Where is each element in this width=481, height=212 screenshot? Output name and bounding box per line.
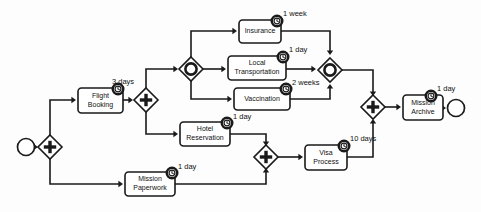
task-vaccination-duration-label: 2 weeks <box>292 78 320 87</box>
flow-split-to-flight-arrowhead <box>71 97 76 103</box>
task-mission-archive-label-line2: Archive <box>411 108 434 115</box>
flow-insurance-to-join-arrowhead <box>327 50 333 55</box>
flow-incl-to-vaccination-line <box>191 81 230 99</box>
task-mission-archive-duration-label: 1 day <box>437 84 456 93</box>
inclusive-gateway-split[interactable] <box>179 57 203 81</box>
task-local-transportation-label-line1: Local <box>249 59 266 66</box>
task-mission-paperwork-duration-label: 1 day <box>178 162 197 171</box>
task-hotel-reservation-label-line1: Hotel <box>197 125 214 132</box>
task-local-transportation-duration-label: 1 day <box>289 45 308 54</box>
flow-incljoin-to-final-line <box>342 70 373 93</box>
bpmn-diagram-svg: FlightBooking3 daysInsurance1 weekLocalT… <box>0 0 481 212</box>
flow-hotel-to-visajoin-line <box>230 134 266 143</box>
task-local-transportation[interactable]: LocalTransportation1 day <box>228 45 308 80</box>
flow-incl-to-insurance-arrowhead <box>232 28 237 34</box>
end-event[interactable] <box>448 100 465 117</box>
flow-vaccination-to-join-arrowhead <box>327 84 333 89</box>
task-hotel-reservation-duration-label: 1 day <box>233 112 252 121</box>
timer-mission-archive[interactable] <box>426 91 436 101</box>
flow-split-to-paperwork[interactable] <box>50 159 123 187</box>
task-flight-booking[interactable]: FlightBooking3 days <box>78 77 134 113</box>
task-insurance-label: Insurance <box>245 27 276 34</box>
task-local-transportation-label-line2: Transportation <box>235 68 280 76</box>
task-hotel-reservation[interactable]: HotelReservation1 day <box>180 112 252 146</box>
flow-visajoin-to-visa[interactable] <box>278 154 303 160</box>
task-visa-process[interactable]: VisaProcess10 days <box>305 134 377 170</box>
flow-gateway-to-hotel-arrowhead <box>173 131 178 137</box>
task-vaccination-label: Vaccination <box>244 95 280 102</box>
flow-flight-to-gateway[interactable] <box>123 97 133 103</box>
timer-vaccination[interactable] <box>281 84 291 94</box>
inclusive-gateway-join[interactable] <box>318 58 342 82</box>
flow-gateway-to-hotel[interactable] <box>146 112 178 137</box>
task-flight-booking-label-line1: Flight <box>92 92 109 100</box>
task-flight-booking-label-line2: Booking <box>88 101 113 109</box>
task-vaccination[interactable]: Vaccination2 weeks <box>234 78 320 110</box>
flow-incl-to-insurance[interactable] <box>191 28 237 57</box>
timer-mission-paperwork[interactable] <box>167 168 177 178</box>
timer-flight-booking[interactable] <box>113 84 123 94</box>
parallel-gateway-join-visa[interactable] <box>254 145 278 169</box>
flow-incl-to-local-arrowhead <box>221 66 226 72</box>
inclusive-gateway-split-diamond[interactable] <box>179 57 203 81</box>
task-visa-process-duration-label: 10 days <box>350 134 377 143</box>
flow-split-to-flight[interactable] <box>50 97 76 135</box>
flow-split-to-paperwork-arrowhead <box>118 181 123 187</box>
flow-incl-to-vaccination-arrowhead <box>227 96 232 102</box>
timer-hotel-reservation[interactable] <box>222 118 232 128</box>
flow-local-to-join-arrowhead <box>311 66 316 72</box>
end-event-circle[interactable] <box>448 100 465 117</box>
timer-visa-process[interactable] <box>339 141 349 151</box>
task-mission-paperwork-label-line1: Mission <box>138 175 162 182</box>
flow-incl-to-vaccination[interactable] <box>191 81 232 102</box>
flow-gateway-to-hotel-line <box>146 112 176 134</box>
parallel-gateway-split-flight[interactable] <box>134 88 158 112</box>
flow-visajoin-to-visa-arrowhead <box>298 154 303 160</box>
flow-final-to-archive[interactable] <box>385 104 401 110</box>
flow-split-to-paperwork-line <box>50 159 121 184</box>
parallel-gateway-split-main[interactable] <box>38 135 62 159</box>
flow-split-to-flight-line <box>50 100 74 135</box>
bpmn-diagram-canvas: FlightBooking3 daysInsurance1 weekLocalT… <box>0 0 481 212</box>
flow-incl-to-local[interactable] <box>203 66 226 72</box>
flow-flight-to-gateway-arrowhead <box>128 97 133 103</box>
inclusive-gateway-join-diamond[interactable] <box>318 58 342 82</box>
flow-gateway-to-incl[interactable] <box>146 66 178 88</box>
task-mission-paperwork[interactable]: MissionPaperwork1 day <box>125 162 197 196</box>
task-visa-process-label-line1: Visa <box>319 149 333 156</box>
timer-insurance[interactable] <box>272 16 282 26</box>
parallel-gateway-join-final[interactable] <box>361 95 385 119</box>
flow-incl-to-insurance-line <box>191 31 235 57</box>
task-hotel-reservation-label-line2: Reservation <box>186 134 223 141</box>
flow-gateway-to-incl-line <box>146 69 175 88</box>
flow-hotel-to-visajoin[interactable] <box>230 134 269 146</box>
flow-gateway-to-incl-arrowhead <box>173 66 178 72</box>
timer-local-transportation[interactable] <box>278 52 288 62</box>
task-insurance-duration-label: 1 week <box>283 9 307 18</box>
start-event[interactable] <box>18 139 35 156</box>
flow-local-to-join[interactable] <box>286 66 316 72</box>
task-visa-process-label-line2: Process <box>313 158 339 165</box>
flow-final-to-archive-arrowhead <box>396 104 401 110</box>
task-mission-paperwork-label-line2: Paperwork <box>133 184 167 192</box>
start-event-circle[interactable] <box>18 139 35 156</box>
flow-paperwork-to-visajoin-line <box>175 171 266 184</box>
flow-vaccination-to-join-line <box>290 87 330 99</box>
flow-incljoin-to-final[interactable] <box>342 70 376 96</box>
